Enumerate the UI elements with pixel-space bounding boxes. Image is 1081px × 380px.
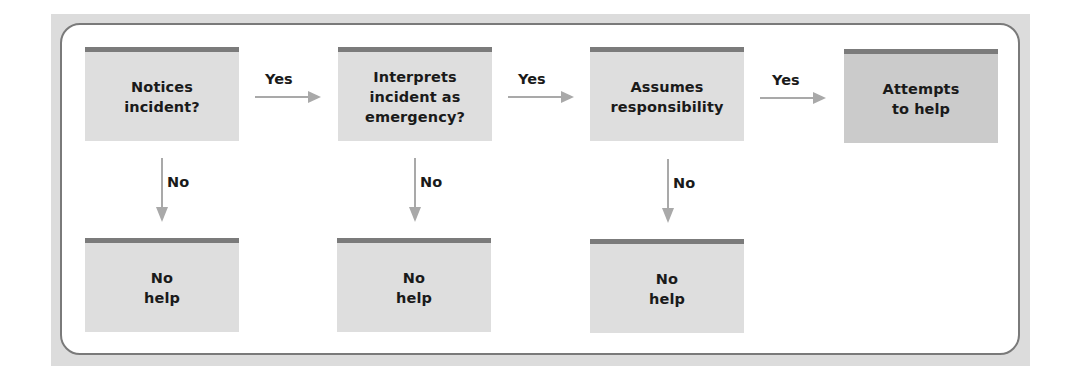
no-arrow-icon — [161, 158, 163, 208]
step-label: Notices incident? — [124, 77, 200, 117]
no-arrow-icon — [414, 158, 416, 208]
step-label: Assumes responsibility — [611, 77, 724, 117]
step-assumes-responsibility: Assumes responsibility — [590, 47, 744, 141]
step-label: Interprets incident as emergency? — [365, 67, 465, 127]
yes-label: Yes — [518, 71, 546, 87]
no-label: No — [167, 174, 189, 190]
step-label: Attempts to help — [883, 79, 960, 119]
no-label: No — [673, 175, 695, 191]
outcome-label: No help — [649, 269, 685, 309]
outcome-no-help: No help — [85, 238, 239, 332]
no-arrow-icon — [667, 159, 669, 209]
yes-arrow-icon — [508, 96, 562, 98]
yes-label: Yes — [265, 71, 293, 87]
step-notices-incident: Notices incident? — [85, 47, 239, 141]
no-label: No — [420, 174, 442, 190]
yes-arrow-icon — [255, 96, 309, 98]
outcome-no-help: No help — [337, 238, 491, 332]
outcome-label: No help — [396, 268, 432, 308]
step-interprets-emergency: Interprets incident as emergency? — [338, 47, 492, 141]
outcome-label: No help — [144, 268, 180, 308]
outcome-no-help: No help — [590, 239, 744, 333]
yes-arrow-icon — [760, 97, 814, 99]
yes-label: Yes — [772, 72, 800, 88]
step-attempts-to-help: Attempts to help — [844, 49, 998, 143]
